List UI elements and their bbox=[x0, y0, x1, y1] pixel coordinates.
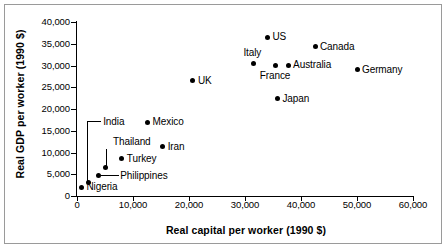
chart-figure: 05,00010,00015,00020,00025,00030,00035,0… bbox=[0, 0, 446, 248]
figure-frame bbox=[4, 4, 442, 244]
